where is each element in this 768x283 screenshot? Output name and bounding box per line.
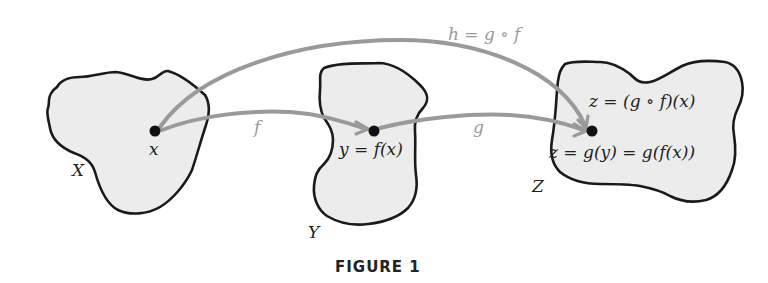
label-set-x: X	[70, 160, 85, 180]
label-set-y: Y	[308, 222, 321, 242]
label-arrow-h: h = g ∘ f	[448, 24, 523, 44]
label-point-z-bottom: z = g(y) = g(f(x))	[548, 142, 695, 162]
point-y	[369, 126, 380, 137]
point-x	[150, 126, 161, 137]
label-point-y: y = f(x)	[338, 139, 403, 159]
set-z-region	[551, 61, 743, 202]
set-x-region	[47, 71, 209, 214]
label-set-z: Z	[531, 176, 545, 196]
composition-diagram: x X y = f(x) Y z = (g ∘ f)(x) z = g(y) =…	[0, 0, 768, 283]
label-arrow-f: f	[252, 117, 263, 137]
point-z	[587, 126, 598, 137]
label-point-z-top: z = (g ∘ f)(x)	[588, 91, 695, 111]
label-arrow-g: g	[473, 117, 484, 137]
figure-caption: FIGURE 1	[335, 258, 421, 276]
label-point-x: x	[149, 139, 159, 159]
